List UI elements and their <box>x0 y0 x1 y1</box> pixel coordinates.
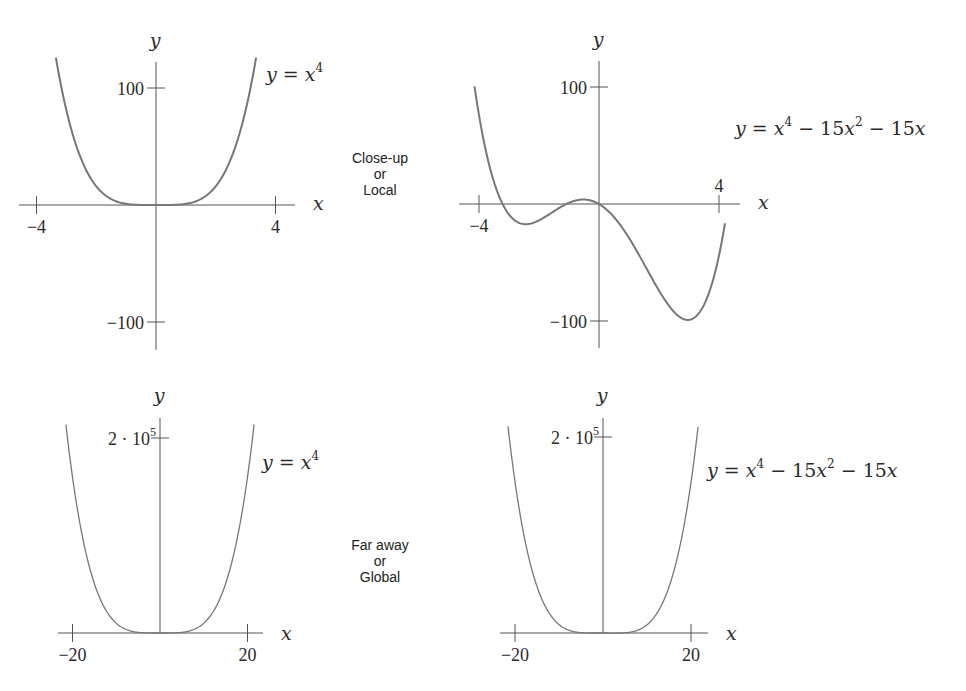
y-tick-label: 2 · 105 <box>551 424 599 448</box>
x-tick-label: −4 <box>469 216 488 236</box>
plot-global-x4: −20202 · 105xyy = x4 <box>58 384 319 665</box>
x-axis-label: x <box>281 622 292 644</box>
row-label-global-line3: Global <box>325 569 435 585</box>
plot-local-x4: −44100−100xyy = x4 <box>19 29 324 350</box>
plot-local-quartic: −44100−100xyy = x4 − 15x2 − 15x <box>459 28 926 348</box>
y-axis-label: y <box>592 28 604 50</box>
row-label-local: Close-up or Local <box>325 150 435 198</box>
y-axis-label: y <box>149 29 161 51</box>
row-label-local-line1: Close-up <box>325 150 435 166</box>
y-tick-label: −100 <box>550 312 587 332</box>
row-label-local-line2: or <box>325 166 435 182</box>
x-axis-label: x <box>758 191 769 213</box>
x-tick-label: −20 <box>58 645 86 665</box>
x-tick-label: 4 <box>715 176 724 196</box>
x-tick-label: 4 <box>271 217 280 237</box>
x-tick-label: −20 <box>501 645 529 665</box>
x-tick-label: −4 <box>27 217 46 237</box>
function-curve <box>475 86 726 320</box>
row-label-local-line3: Local <box>325 182 435 198</box>
y-tick-label: 2 · 105 <box>108 425 156 449</box>
figure-canvas: −44100−100xyy = x4 −44100−100xyy = x4 − … <box>0 0 966 691</box>
row-label-global-line2: or <box>325 553 435 569</box>
row-label-global-line1: Far away <box>325 537 435 553</box>
y-tick-label: 100 <box>117 79 144 99</box>
plot-global-quartic: −20202 · 105xyy = x4 − 15x2 − 15x <box>500 384 898 665</box>
x-tick-label: 20 <box>682 645 700 665</box>
equation-label: y = x4 − 15x2 − 15x <box>706 457 898 481</box>
row-label-global: Far away or Global <box>325 537 435 585</box>
x-axis-label: x <box>726 622 737 644</box>
y-axis-label: y <box>153 384 165 406</box>
equation-label: y = x4 <box>261 449 319 473</box>
x-tick-label: 20 <box>239 645 257 665</box>
equation-label: y = x4 <box>265 61 323 85</box>
equation-label: y = x4 − 15x2 − 15x <box>734 115 926 139</box>
y-tick-label: 100 <box>560 78 587 98</box>
y-tick-label: −100 <box>107 313 144 333</box>
y-axis-label: y <box>596 384 608 406</box>
x-axis-label: x <box>313 192 324 214</box>
